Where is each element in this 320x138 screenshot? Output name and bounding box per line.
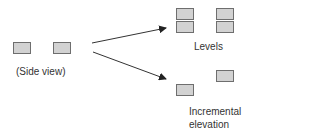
arrow-to-incremental — [93, 52, 166, 79]
incremental-box-high — [216, 70, 234, 82]
incremental-label-line2: elevation — [189, 118, 229, 131]
incremental-box-low — [176, 84, 194, 96]
incremental-label-line1: Incremental — [189, 105, 241, 118]
levels-label: Levels — [194, 40, 223, 53]
levels-box-right-bottom — [216, 21, 234, 33]
levels-box-left-bottom — [176, 21, 194, 33]
levels-box-right-top — [216, 8, 234, 20]
levels-box-left-top — [176, 8, 194, 20]
arrow-to-levels — [92, 28, 166, 43]
